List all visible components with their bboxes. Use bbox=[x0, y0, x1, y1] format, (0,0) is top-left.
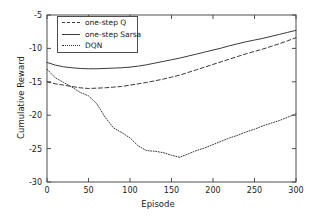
legend-label: one-step Q bbox=[85, 17, 126, 29]
legend-item-one-step-sarsa: one-step Sarsa bbox=[62, 29, 137, 41]
series-line-dqn bbox=[47, 69, 296, 157]
solid-line-icon bbox=[62, 30, 80, 38]
dashed-line-icon bbox=[62, 19, 80, 27]
y-tick-label: -5 bbox=[15, 11, 42, 20]
x-tick-label: 200 bbox=[205, 186, 220, 195]
x-tick-label: 100 bbox=[122, 186, 137, 195]
x-tick-label: 300 bbox=[288, 186, 303, 195]
x-axis-label: Episode bbox=[0, 199, 316, 209]
y-axis-label: Cumulative Reward bbox=[16, 56, 26, 139]
legend-item-one-step-q: one-step Q bbox=[62, 17, 137, 29]
y-tick-label: -30 bbox=[15, 178, 42, 187]
legend-label: DQN bbox=[85, 40, 102, 52]
legend-item-dqn: DQN bbox=[62, 40, 137, 52]
chart-legend: one-step Q one-step Sarsa DQN bbox=[57, 16, 138, 53]
dotted-line-icon bbox=[62, 42, 80, 50]
x-tick-label: 250 bbox=[247, 186, 262, 195]
plot-canvas bbox=[0, 0, 316, 217]
chart-figure: 050100150200250300-5-10-15-20-25-30 Epis… bbox=[0, 0, 316, 217]
x-tick-label: 50 bbox=[83, 186, 93, 195]
x-tick-label: 0 bbox=[44, 186, 49, 195]
x-tick-label: 150 bbox=[164, 186, 179, 195]
legend-label: one-step Sarsa bbox=[85, 29, 141, 41]
y-axis-label-wrapper: Cumulative Reward bbox=[9, 38, 28, 158]
